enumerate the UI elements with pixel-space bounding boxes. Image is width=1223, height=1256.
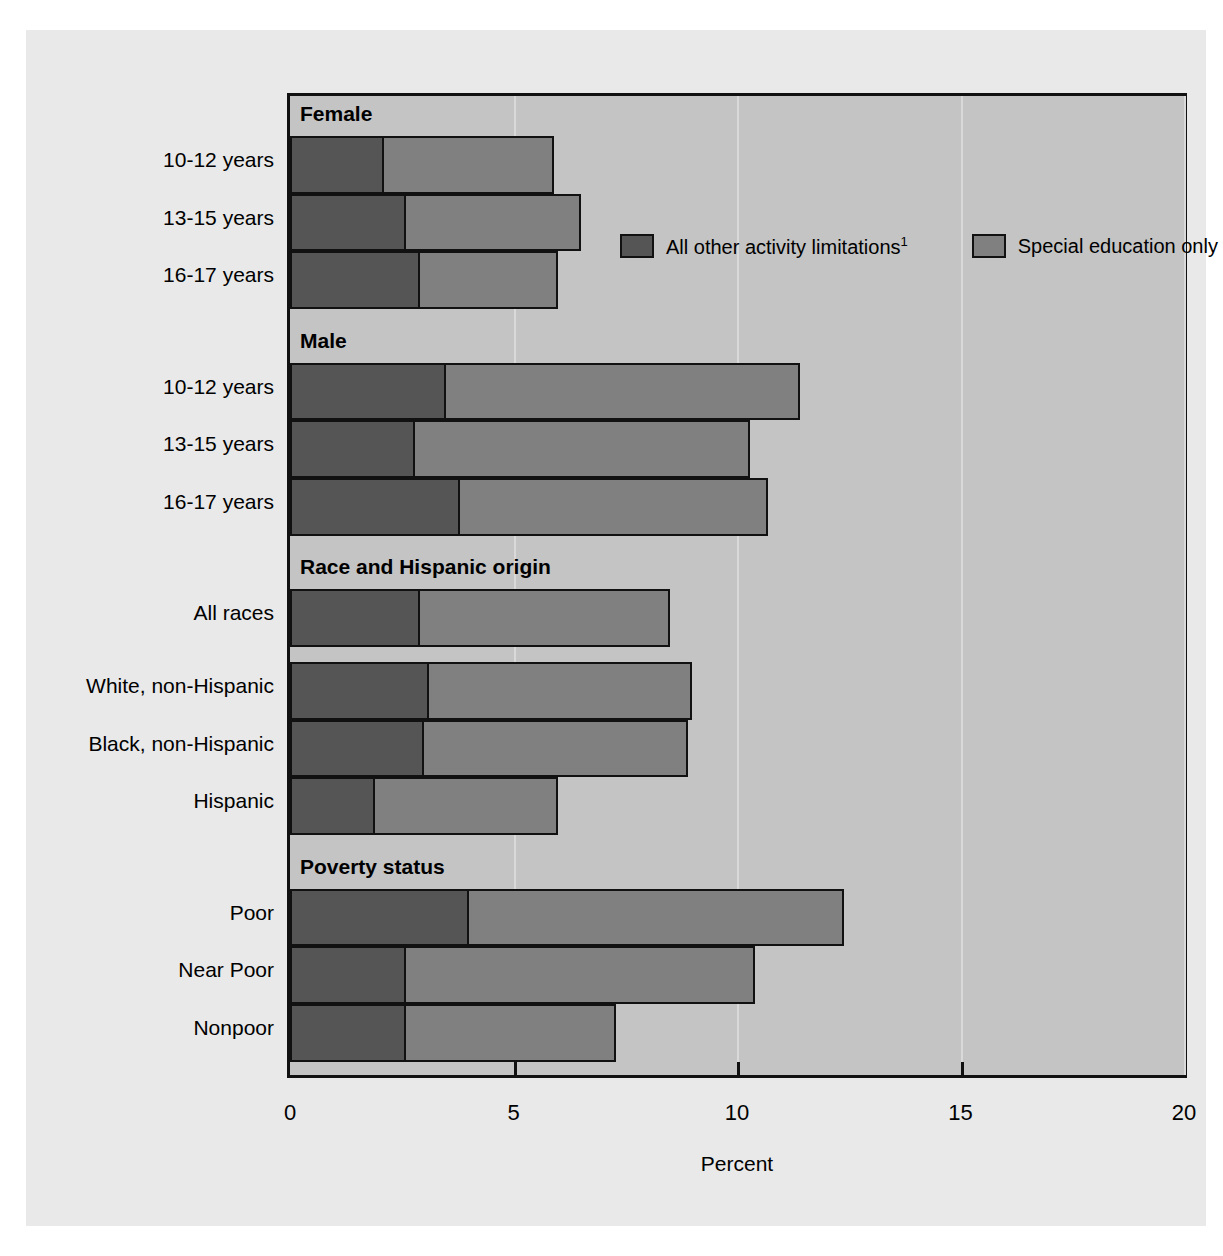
y-axis-label-nonpoor: Nonpoor [24, 1016, 274, 1040]
bar-segment-all-other-activity-limitations [290, 420, 415, 478]
x-axis-tick-label-20: 20 [1172, 1100, 1196, 1126]
bar-segment-all-other-activity-limitations [290, 777, 375, 835]
legend-item-all-other-activity-limitations[interactable]: All other activity limitations1 [620, 234, 908, 259]
bar-segment-all-other-activity-limitations [290, 1004, 406, 1062]
y-axis-label-10-12-years: 10-12 years [24, 375, 274, 399]
y-axis-label-13-15-years: 13-15 years [24, 432, 274, 456]
bar-segment-special-education-only [406, 1004, 616, 1062]
chart-plot-area: FemaleMaleRace and Hispanic originPovert… [287, 93, 1187, 1078]
group-header-race-and-hispanic-origin: Race and Hispanic origin [300, 555, 551, 579]
y-axis-label-13-15-years: 13-15 years [24, 206, 274, 230]
page-sheet: 10-12 years13-15 years16-17 years10-12 y… [26, 30, 1206, 1226]
bar-segment-special-education-only [420, 589, 670, 647]
y-axis-label-16-17-years: 16-17 years [24, 263, 274, 287]
bar-segment-special-education-only [406, 946, 755, 1004]
x-axis-tick-15 [961, 1062, 964, 1078]
y-axis-label-black-non-hispanic: Black, non-Hispanic [24, 732, 274, 756]
legend-label-special-education-only: Special education only [1018, 235, 1218, 258]
x-axis-tick-label-15: 15 [948, 1100, 972, 1126]
y-axis-label-hispanic: Hispanic [24, 789, 274, 813]
y-axis-label-16-17-years: 16-17 years [24, 490, 274, 514]
bar-segment-all-other-activity-limitations [290, 478, 460, 536]
bar-segment-special-education-only [420, 251, 559, 309]
legend-label-all-other-activity-limitations: All other activity limitations1 [666, 234, 908, 259]
bar-segment-all-other-activity-limitations [290, 946, 406, 1004]
x-axis-tick-5 [514, 1062, 517, 1078]
chart-legend: All other activity limitations1 Special … [620, 234, 1218, 259]
x-axis-tick-label-0: 0 [284, 1100, 296, 1126]
bar-segment-special-education-only [460, 478, 768, 536]
bar-segment-all-other-activity-limitations [290, 136, 384, 194]
bar-segment-all-other-activity-limitations [290, 251, 420, 309]
legend-item-special-education-only[interactable]: Special education only [972, 234, 1218, 258]
x-axis-tick-label-5: 5 [507, 1100, 519, 1126]
bar-segment-special-education-only [424, 720, 688, 778]
bar-segment-all-other-activity-limitations [290, 889, 469, 947]
bar-segment-all-other-activity-limitations [290, 662, 429, 720]
bar-segment-all-other-activity-limitations [290, 589, 420, 647]
bar-segment-special-education-only [446, 363, 799, 421]
bar-segment-special-education-only [406, 194, 580, 252]
bar-segment-all-other-activity-limitations [290, 363, 446, 421]
y-axis-label-white-non-hispanic: White, non-Hispanic [24, 674, 274, 698]
x-axis-title: Percent [287, 1152, 1187, 1176]
group-header-poverty-status: Poverty status [300, 855, 445, 879]
group-header-male: Male [300, 329, 347, 353]
bar-segment-all-other-activity-limitations [290, 194, 406, 252]
bar-segment-all-other-activity-limitations [290, 720, 424, 778]
x-axis-tick-label-10: 10 [725, 1100, 749, 1126]
y-axis-label-near-poor: Near Poor [24, 958, 274, 982]
y-axis-label-all-races: All races [24, 601, 274, 625]
legend-swatch-icon-light [972, 234, 1006, 258]
x-axis-tick-10 [737, 1062, 740, 1078]
bar-segment-special-education-only [384, 136, 554, 194]
group-header-female: Female [300, 102, 372, 126]
bar-segment-special-education-only [469, 889, 844, 947]
bar-segment-special-education-only [415, 420, 750, 478]
y-axis-labels: 10-12 years13-15 years16-17 years10-12 y… [26, 93, 274, 1078]
bar-segment-special-education-only [429, 662, 693, 720]
x-axis: 05101520 [287, 1078, 1187, 1118]
y-axis-label-poor: Poor [24, 901, 274, 925]
legend-swatch-icon-dark [620, 234, 654, 258]
bar-segment-special-education-only [375, 777, 558, 835]
y-axis-label-10-12-years: 10-12 years [24, 148, 274, 172]
